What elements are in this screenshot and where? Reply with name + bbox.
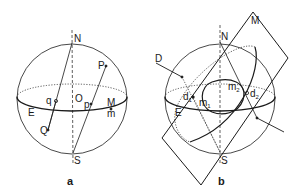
point-d1 xyxy=(192,96,194,98)
point-exit xyxy=(256,117,258,119)
point-p xyxy=(90,103,92,105)
caption-a: a xyxy=(67,175,74,187)
label-p: p xyxy=(84,99,90,110)
line-D xyxy=(156,63,182,77)
label-Q: Q xyxy=(40,125,48,136)
label-d1: d1 xyxy=(183,91,193,103)
label-E-b: E xyxy=(175,107,182,118)
label-N-a: N xyxy=(74,33,81,44)
label-P: P xyxy=(98,60,105,71)
label-S-a: S xyxy=(74,155,81,166)
label-m-a: m xyxy=(107,108,115,119)
label-d2: d2 xyxy=(250,88,260,100)
caption-b: b xyxy=(218,175,225,187)
point-P xyxy=(105,65,107,67)
label-m1: m1 xyxy=(199,97,211,109)
label-M-a: M xyxy=(107,97,115,108)
equator-back-a xyxy=(17,84,127,97)
point-D-end xyxy=(181,76,183,78)
label-N-b: N xyxy=(221,31,228,42)
label-M-b: M xyxy=(251,15,259,26)
stereographic-projection-diagram: N P O q p M m E Q S a N M D d1 xyxy=(0,0,305,196)
axis-ns-a xyxy=(72,30,73,165)
label-D: D xyxy=(155,53,162,64)
label-O: O xyxy=(75,93,83,104)
label-q: q xyxy=(46,95,52,106)
label-E-a: E xyxy=(28,107,35,118)
label-S-b: S xyxy=(221,155,228,166)
